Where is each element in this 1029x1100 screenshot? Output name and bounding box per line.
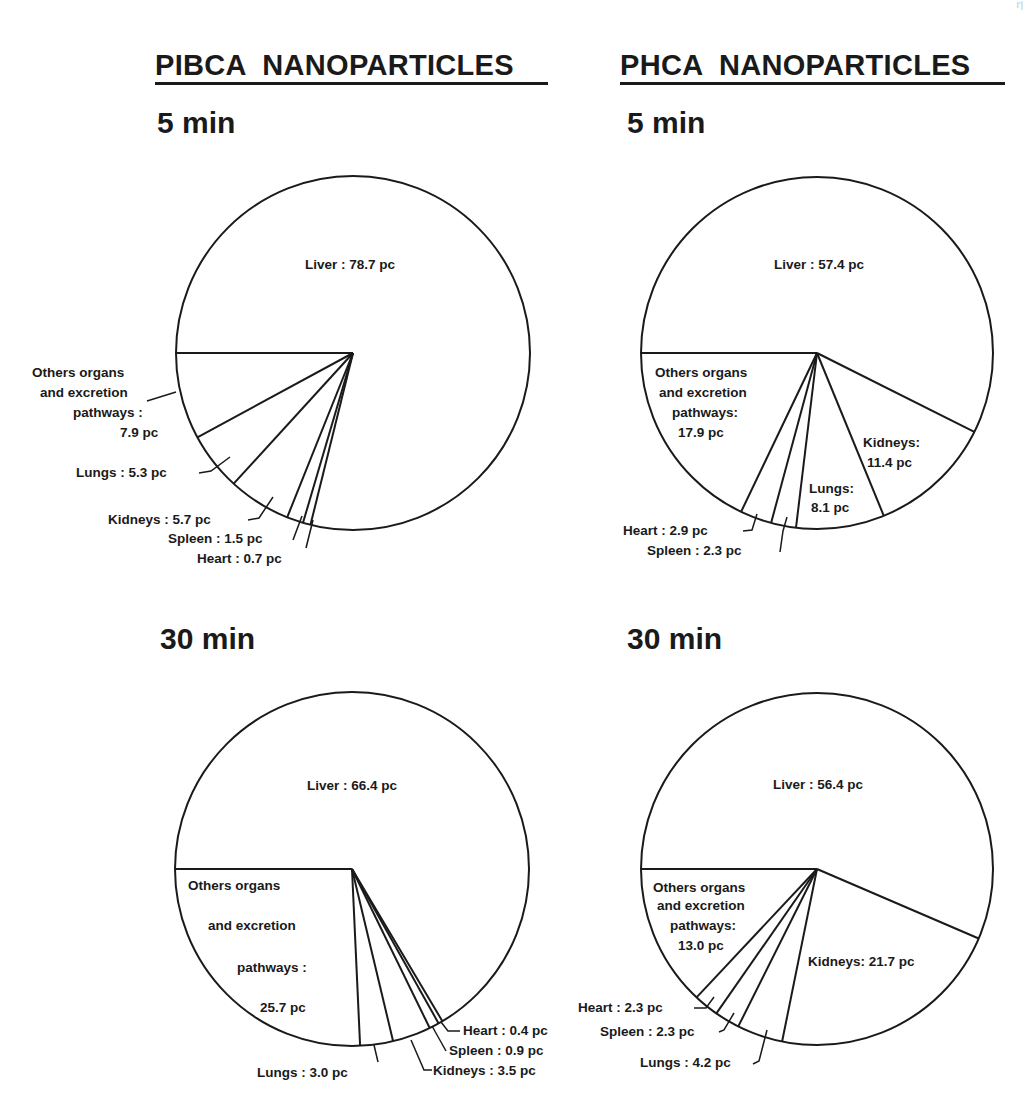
slice-label-text: Liver : 66.4 pc — [307, 778, 398, 793]
pie-phca-30min: Others organsand excretionpathways:13.0 … — [578, 693, 993, 1070]
slice-label: Heart : 0.4 pc — [441, 1022, 548, 1038]
leader-line — [147, 392, 176, 401]
slice-label-text: and excretion — [208, 918, 296, 933]
slice-label-text: Lungs : 5.3 pc — [76, 465, 167, 480]
slice-label-text: Kidneys : 5.7 pc — [108, 512, 211, 527]
slice-label: Kidneys: 21.7 pc — [808, 954, 915, 969]
slice-label: Liver : 57.4 pc — [774, 257, 865, 272]
slice-label-text: 17.9 pc — [678, 425, 724, 440]
slice-label-text: 11.4 pc — [867, 455, 913, 470]
slice-label: Lungs : 5.3 pc — [76, 457, 230, 480]
slice-label-text: 25.7 pc — [260, 1000, 306, 1015]
slice-label-text: Others organs — [653, 880, 745, 895]
slice-label: Spleen : 2.3 pc — [600, 1013, 734, 1039]
slice-label-text: and excretion — [659, 385, 747, 400]
slice-label-text: Kidneys: 21.7 pc — [808, 954, 915, 969]
slice-label-text: Kidneys : 3.5 pc — [433, 1063, 536, 1078]
slice-label-text: Liver : 56.4 pc — [773, 777, 864, 792]
slice-label-text: Heart : 2.9 pc — [623, 523, 708, 538]
slice-label: Liver : 66.4 pc — [307, 778, 398, 793]
leader-line — [432, 1026, 446, 1051]
slice-label-text: Liver : 57.4 pc — [774, 257, 865, 272]
slice-label-text: Spleen : 2.3 pc — [647, 543, 742, 558]
slice-label-text: Others organs — [32, 365, 124, 380]
leader-line — [441, 1022, 460, 1031]
pie-chart-figure: Others organsand excretionpathways :7.9 … — [0, 0, 1029, 1100]
slice-label: Liver : 78.7 pc — [305, 257, 396, 272]
leader-line — [374, 1045, 378, 1062]
slice-label: Heart : 2.9 pc — [623, 514, 757, 538]
pie-phca-5min: Others organsand excretionpathways:17.9 … — [623, 177, 993, 558]
slice-label-text: Lungs: — [809, 481, 854, 496]
slice-label-text: Spleen : 2.3 pc — [600, 1024, 695, 1039]
slice-label: Heart : 2.3 pc — [578, 997, 714, 1015]
pie-pibca-5min: Others organsand excretionpathways :7.9 … — [32, 176, 530, 566]
slice-label-text: and excretion — [40, 385, 128, 400]
slice-label-text: Lungs : 4.2 pc — [640, 1055, 731, 1070]
slice-label-text: pathways : — [73, 405, 143, 420]
slice-label: Others organsand excretionpathways :7.9 … — [32, 365, 176, 440]
slice-label: Liver : 56.4 pc — [773, 777, 864, 792]
slice-label-text: Heart : 0.4 pc — [463, 1023, 548, 1038]
slice-label: Kidneys : 5.7 pc — [108, 497, 273, 527]
slice-label-text: 13.0 pc — [678, 938, 724, 953]
slice-label-text: Lungs : 3.0 pc — [257, 1065, 348, 1080]
slice-label-text: pathways: — [672, 405, 738, 420]
slice-label-text: Heart : 2.3 pc — [578, 1000, 663, 1015]
slice-label-text: and excretion — [657, 898, 745, 913]
slice-label-text: pathways: — [670, 918, 736, 933]
slice-label-text: Spleen : 0.9 pc — [449, 1043, 544, 1058]
slice-label-text: 8.1 pc — [811, 500, 850, 515]
leader-line — [411, 1040, 432, 1070]
slice-label-text: Others organs — [188, 878, 280, 893]
slice-label-text: Spleen : 1.5 pc — [168, 531, 263, 546]
slice-label-text: Kidneys: — [863, 435, 920, 450]
slice-label-text: 7.9 pc — [120, 425, 159, 440]
pie-pibca-30min: Others organsand excretionpathways :25.7… — [175, 692, 548, 1080]
slice-label: Lungs : 3.0 pc — [257, 1045, 378, 1080]
slice-label-text: pathways : — [237, 960, 307, 975]
slice-label-text: Others organs — [655, 365, 747, 380]
slice-label-text: Heart : 0.7 pc — [197, 551, 282, 566]
slice-label-text: Liver : 78.7 pc — [305, 257, 396, 272]
